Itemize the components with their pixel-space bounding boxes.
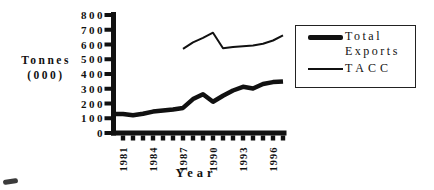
- series-line-total-exports: [115, 81, 283, 115]
- y-tick-label: 100: [40, 111, 105, 125]
- y-axis-tick: [105, 131, 113, 135]
- y-tick-label: 300: [40, 82, 105, 96]
- x-tick-label: 1996: [267, 138, 280, 172]
- legend-swatch-tacc-line: [308, 68, 343, 70]
- y-tick-label: 400: [40, 67, 105, 81]
- legend-swatch-total-exports-line: [308, 35, 343, 40]
- legend-label-total-exports: Total Exports: [345, 29, 400, 59]
- x-axis-tick: [201, 136, 205, 141]
- x-axis-tick: [161, 136, 165, 141]
- x-axis-tick: [171, 136, 175, 141]
- y-tick-label: 600: [40, 38, 105, 52]
- y-axis-tick: [105, 57, 113, 61]
- x-axis-tick: [131, 136, 135, 141]
- x-axis-tick: [141, 136, 145, 141]
- legend-box: Total Exports TACC: [295, 25, 416, 88]
- y-axis-tick: [105, 28, 113, 32]
- legend-label-total-exports-line2: Exports: [345, 44, 400, 59]
- x-axis-tick: [261, 136, 265, 141]
- chart-figure: Tonnes (000) 0100200300400500600700800 1…: [0, 0, 434, 190]
- x-axis-title: Year: [146, 166, 246, 181]
- legend-label-total-exports-line1: Total: [345, 29, 400, 44]
- x-axis-tick: [251, 136, 255, 141]
- y-tick-label: 800: [40, 8, 105, 22]
- x-axis-tick: [221, 136, 225, 141]
- y-axis-tick: [105, 72, 113, 76]
- x-axis-tick: [231, 136, 235, 141]
- y-tick-label: 0: [40, 126, 105, 140]
- y-axis-tick: [105, 13, 113, 17]
- y-tick-label: 200: [40, 97, 105, 111]
- series-line-tacc: [183, 33, 283, 49]
- y-axis-tick: [105, 102, 113, 106]
- x-tick-label: 1981: [117, 138, 130, 172]
- x-axis-tick: [191, 136, 195, 141]
- legend-label-tacc: TACC: [345, 61, 392, 76]
- y-axis-tick: [105, 116, 113, 120]
- y-tick-label: 500: [40, 52, 105, 66]
- y-axis-tick: [105, 87, 113, 91]
- y-axis-tick: [105, 43, 113, 47]
- x-axis-tick: [281, 136, 285, 141]
- y-tick-label: 700: [40, 23, 105, 37]
